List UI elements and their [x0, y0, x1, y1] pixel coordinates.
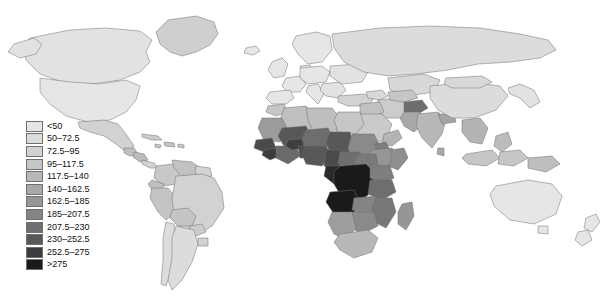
legend-swatch	[26, 121, 43, 132]
legend-swatch	[26, 159, 43, 170]
legend-item: 117.5–140	[26, 170, 100, 183]
legend-label: 50–72.5	[47, 133, 80, 144]
legend-label: <50	[47, 121, 62, 132]
country-hispaniola	[164, 142, 175, 147]
legend-item: >275	[26, 259, 100, 272]
legend-label: 117.5–140	[47, 171, 89, 182]
legend-swatch	[26, 234, 43, 245]
country-puerto-rico	[178, 144, 184, 148]
legend-item: 72.5–95	[26, 145, 100, 158]
legend-swatch	[26, 209, 43, 220]
legend-label: 230–252.5	[47, 234, 90, 245]
legend-swatch	[26, 222, 43, 233]
legend-label: 207.5–230	[47, 222, 90, 233]
country-uruguay	[198, 238, 208, 246]
country-tasmania	[538, 226, 548, 234]
legend-item: 185–207.5	[26, 208, 100, 221]
legend-label: 140–162.5	[47, 184, 90, 195]
legend-label: >275	[47, 259, 67, 270]
legend-item: 140–162.5	[26, 183, 100, 196]
country-germany-poland	[300, 66, 330, 84]
legend-swatch	[26, 171, 43, 182]
country-jamaica	[155, 144, 161, 148]
legend-item: 95–117.5	[26, 158, 100, 171]
legend-swatch	[26, 259, 43, 270]
legend-label: 252.5–275	[47, 247, 90, 258]
legend-item: <50	[26, 120, 100, 133]
legend-swatch	[26, 196, 43, 207]
choropleth-legend: <50 50–72.5 72.5–95 95–117.5 117.5–140 1…	[26, 120, 100, 271]
legend-label: 95–117.5	[47, 159, 84, 170]
world-choropleth-map-figure: <50 50–72.5 72.5–95 95–117.5 117.5–140 1…	[0, 0, 615, 306]
legend-label: 185–207.5	[47, 209, 90, 220]
legend-item: 50–72.5	[26, 133, 100, 146]
legend-swatch	[26, 133, 43, 144]
legend-swatch	[26, 247, 43, 258]
legend-swatch	[26, 146, 43, 157]
legend-item: 162.5–185	[26, 196, 100, 209]
legend-item: 252.5–275	[26, 246, 100, 259]
legend-item: 207.5–230	[26, 221, 100, 234]
legend-item: 230–252.5	[26, 233, 100, 246]
legend-label: 72.5–95	[47, 146, 80, 157]
legend-label: 162.5–185	[47, 196, 90, 207]
legend-swatch	[26, 184, 43, 195]
